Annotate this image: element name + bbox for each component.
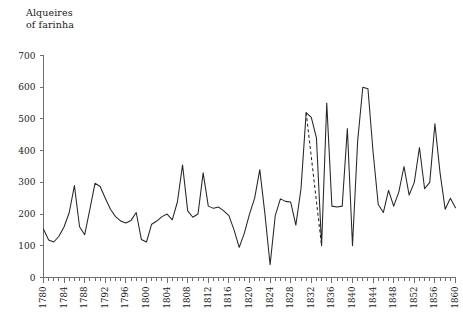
x-tick-label: 1820 <box>244 287 254 309</box>
x-tick-label: 1784 <box>59 286 69 308</box>
x-tick-label: 1848 <box>388 287 398 309</box>
y-tick-label: 200 <box>18 209 35 219</box>
series-line-dashed <box>306 113 321 246</box>
data-series-group <box>44 87 456 265</box>
x-tick-label: 1828 <box>285 287 295 309</box>
x-tick-label: 1844 <box>368 286 378 308</box>
x-tick-label: 1852 <box>409 287 419 309</box>
x-tick-label: 1836 <box>326 287 336 309</box>
series-line <box>44 113 317 265</box>
y-tick-label: 400 <box>18 146 35 156</box>
y-tick-label: 0 <box>30 273 36 283</box>
x-tick-label: 1808 <box>182 287 192 309</box>
x-tick-label: 1780 <box>38 287 48 309</box>
x-tick-label: 1856 <box>429 287 439 309</box>
y-tick-label: 700 <box>18 51 35 61</box>
x-tick-label: 1804 <box>162 286 172 308</box>
x-tick-label: 1832 <box>306 287 316 309</box>
x-tick-label: 1796 <box>120 287 130 309</box>
y-tick-label: 300 <box>18 177 35 187</box>
y-tick-label: 100 <box>18 241 35 251</box>
y-axis-ticks: 0100200300400500600700 <box>18 51 43 283</box>
x-tick-label: 1800 <box>141 287 151 309</box>
x-tick-label: 1792 <box>100 287 110 309</box>
line-chart-plot: 0100200300400500600700 17801784178817921… <box>0 0 463 324</box>
series-line <box>316 87 455 246</box>
x-tick-label: 1816 <box>223 287 233 309</box>
x-tick-label: 1788 <box>79 287 89 309</box>
x-axis-ticks: 1780178417881792179618001804180818121816… <box>38 278 460 309</box>
x-tick-label: 1840 <box>347 287 357 309</box>
y-tick-label: 600 <box>18 82 35 92</box>
chart-figure: Alqueires of farinha 0100200300400500600… <box>0 0 463 324</box>
x-tick-label: 1824 <box>265 286 275 308</box>
x-tick-label: 1860 <box>450 287 460 309</box>
y-tick-label: 500 <box>18 114 35 124</box>
x-tick-label: 1812 <box>203 287 213 309</box>
